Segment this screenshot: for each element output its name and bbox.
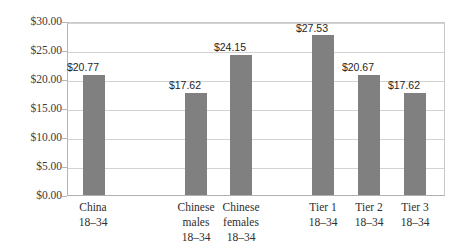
bar-value-label: $20.67	[328, 62, 388, 73]
bar-value-label: $17.62	[155, 80, 215, 91]
x-axis-tick-label: Chinese females 18–34	[208, 200, 274, 246]
y-axis-tick-label: $20.00	[0, 74, 62, 86]
bar-value-label: $24.15	[200, 42, 260, 53]
gridline	[68, 110, 444, 111]
gridline	[68, 168, 444, 169]
y-axis-tick-label: $15.00	[0, 103, 62, 115]
bar-value-label: $17.62	[374, 80, 434, 91]
bar	[230, 55, 252, 195]
y-axis-tick-mark	[62, 196, 67, 197]
y-axis-tick-label: $30.00	[0, 16, 62, 28]
bar	[358, 75, 380, 195]
x-axis-tick-label: China 18–34	[60, 200, 126, 230]
gridline	[68, 23, 444, 24]
x-axis: China 18–34 Chinese males 18–34 Chinese …	[0, 200, 459, 248]
gridline	[68, 139, 444, 140]
bar	[185, 93, 207, 195]
bar-value-label: $27.53	[282, 23, 342, 34]
y-axis-tick-label: $25.00	[0, 45, 62, 57]
x-axis-tick-label: Tier 3 18–34	[382, 200, 448, 230]
bar-value-label: $20.77	[53, 62, 113, 73]
y-axis-tick-label: $10.00	[0, 132, 62, 144]
bar	[312, 35, 334, 195]
bar	[83, 75, 105, 196]
bar-chart: $30.00 $25.00 $20.00 $15.00 $10.00 $5.00…	[0, 0, 459, 248]
y-axis-tick-label: $5.00	[0, 161, 62, 173]
bar	[404, 93, 426, 195]
